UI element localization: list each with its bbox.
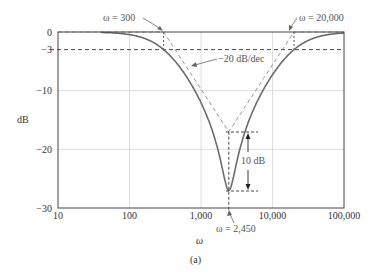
annotation-w20000: ω = 20,000 xyxy=(299,12,344,23)
notch-filter-bode-chart: 0−3−10−20−30 101001,00010,000100,000 ω =… xyxy=(0,0,379,274)
arrow-w300 xyxy=(143,18,161,29)
y-tick-label: 0 xyxy=(47,27,52,38)
x-axis-ticks: 101001,00010,000100,000 xyxy=(53,210,360,221)
y-tick-label: −20 xyxy=(36,144,52,155)
x-tick-label: 100 xyxy=(122,210,137,221)
dim-arrowhead-down-icon xyxy=(246,184,251,190)
x-tick-label: 100,000 xyxy=(328,210,361,221)
arrowhead-w2450-icon xyxy=(227,210,232,216)
arrowhead-slope-icon xyxy=(191,62,197,67)
y-axis-ticks: 0−3−10−20−30 xyxy=(36,27,52,214)
arrow-w20000 xyxy=(291,18,297,27)
arrow-slope xyxy=(195,59,217,65)
x-tick-label: 1,000 xyxy=(190,210,213,221)
grid-lines xyxy=(58,32,344,208)
y-tick-label: −10 xyxy=(36,85,52,96)
y-axis-label: dB xyxy=(17,114,29,125)
annotation-w300: ω = 300 xyxy=(103,12,135,23)
arrow-w2450 xyxy=(230,214,234,223)
annotation-10db: 10 dB xyxy=(241,155,266,166)
annotation-slope: −20 dB/dec xyxy=(218,53,265,64)
x-axis-label: ω xyxy=(196,235,203,246)
figure-caption: (a) xyxy=(190,254,201,266)
reference-lines xyxy=(50,32,344,212)
x-tick-label: 10 xyxy=(53,210,63,221)
dim-arrowhead-up-icon xyxy=(246,133,251,139)
x-tick-label: 10,000 xyxy=(259,210,287,221)
arrowhead-w20000-icon xyxy=(289,25,293,31)
annotation-w2450: ω = 2,450 xyxy=(216,223,256,234)
y-tick-label: −3 xyxy=(41,44,52,55)
y-tick-label: −30 xyxy=(36,203,52,214)
